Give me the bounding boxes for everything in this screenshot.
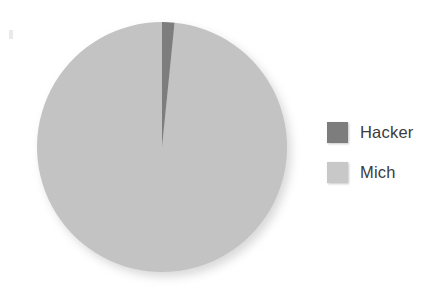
legend-swatch-hacker xyxy=(327,122,348,143)
legend-label-mich: Mich xyxy=(360,164,396,181)
legend-item-mich[interactable]: Mich xyxy=(327,152,433,192)
legend-swatch-mich xyxy=(327,162,348,183)
legend-label-hacker: Hacker xyxy=(360,124,413,141)
scan-artifact-speck xyxy=(9,30,13,39)
pie-svg xyxy=(37,22,287,272)
pie-graphic xyxy=(37,22,287,272)
pie-chart-figure: Hacker Mich xyxy=(0,0,437,306)
legend-item-hacker[interactable]: Hacker xyxy=(327,112,433,152)
chart-legend: Hacker Mich xyxy=(327,112,433,192)
